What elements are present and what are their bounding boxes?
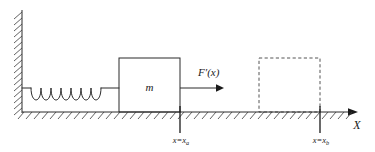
xa-label: x=xa	[172, 135, 189, 146]
x-axis-label: X	[352, 118, 361, 132]
spring-coils	[31, 88, 101, 100]
spring	[22, 88, 119, 100]
xa-label-prefix: x=x	[172, 135, 187, 145]
xa-label-subscript: a	[186, 139, 189, 146]
force-label-text: F′(x)	[197, 66, 220, 79]
force-arrow	[180, 84, 224, 92]
mass-label: m	[146, 81, 154, 93]
wall-hatching	[14, 12, 22, 115]
force-arrow-head	[216, 84, 224, 92]
mass-block-final-outline	[259, 58, 320, 112]
mass-block: m	[119, 58, 180, 112]
mass-block-final-position	[259, 58, 320, 112]
force-label: F′(x)	[197, 66, 220, 79]
ground-hatching	[18, 112, 352, 119]
fixed-wall	[14, 10, 22, 115]
physics-diagram-canvas: m F′(x)	[0, 0, 375, 152]
diagram-svg: m F′(x)	[0, 0, 375, 152]
ground-surface	[18, 108, 358, 119]
xb-label: x=xb	[312, 135, 329, 146]
xb-label-prefix: x=x	[312, 135, 327, 145]
xb-label-subscript: b	[326, 139, 329, 146]
